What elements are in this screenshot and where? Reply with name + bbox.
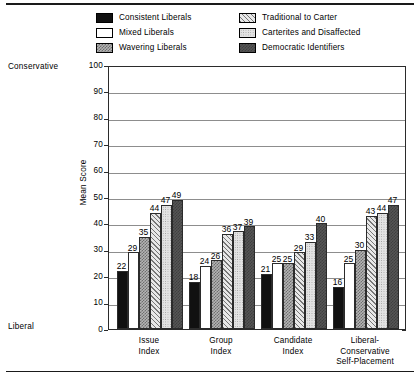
bar-value-label: 39: [242, 217, 256, 227]
bar: [117, 271, 128, 329]
bar: [139, 237, 150, 329]
bar: [222, 234, 233, 329]
y-tick-label: 70: [77, 140, 103, 149]
bar: [261, 274, 272, 329]
legend-item: Carterites and Disaffected: [239, 25, 396, 40]
y-tick-label: 0: [77, 325, 103, 334]
bar: [200, 266, 211, 329]
y-tick-label: 100: [77, 61, 103, 70]
bar-value-label: 35: [137, 227, 151, 237]
y-tick-label: 60: [77, 166, 103, 175]
y-tick-label: 50: [77, 193, 103, 202]
bar-value-label: 18: [187, 272, 201, 282]
legend-item: Mixed Liberals: [96, 25, 239, 40]
legend-swatch-dark-gray-icon: [239, 43, 256, 53]
y-tick-label: 30: [77, 245, 103, 254]
legend-item: Consistent Liberals: [96, 10, 239, 25]
bar: [305, 242, 316, 329]
bar: [172, 200, 183, 329]
legend-label: Consistent Liberals: [119, 13, 191, 23]
x-axis-group-label-line: Self-Placement: [322, 357, 408, 368]
legend-label: Democratic Identifiers: [262, 43, 344, 53]
axis-annotation-liberal: Liberal: [8, 322, 34, 331]
bar-value-label: 29: [292, 243, 306, 253]
bar-value-label: 33: [303, 232, 317, 242]
legend-label: Wavering Liberals: [119, 43, 187, 53]
x-axis-group-label-line: Conservative: [322, 347, 408, 358]
legend-label: Carterites and Disaffected: [262, 28, 360, 38]
legend-item: Democratic Identifiers: [239, 40, 396, 55]
bar-value-label: 25: [281, 254, 295, 264]
y-axis-title: Mean Score: [79, 138, 88, 228]
y-tick-label: 10: [77, 298, 103, 307]
bar: [211, 260, 222, 329]
gridline: [109, 93, 405, 94]
bar: [316, 223, 327, 329]
legend-label: Mixed Liberals: [119, 28, 174, 38]
bar: [150, 213, 161, 329]
bar: [366, 216, 377, 330]
bar-value-label: 21: [259, 264, 273, 274]
bar: [377, 213, 388, 329]
bar: [244, 226, 255, 329]
bar: [128, 252, 139, 329]
legend-item: Traditional to Carter: [239, 10, 396, 25]
bar: [272, 263, 283, 329]
bar: [189, 282, 200, 330]
x-axis-group-label-line: Liberal-: [322, 336, 408, 347]
bar: [161, 205, 172, 329]
legend-swatch-dots-icon: [239, 28, 256, 38]
plot-area: [108, 66, 406, 330]
bar-value-label: 40: [314, 214, 328, 224]
bottom-horizontal-rule: [6, 371, 414, 372]
legend-swatch-hatch-icon: [239, 13, 256, 23]
bar-value-label: 22: [115, 261, 129, 271]
top-horizontal-rule: [6, 3, 414, 5]
y-tick-label: 20: [77, 272, 103, 281]
legend-swatch-checker-icon: [96, 43, 113, 53]
bar-value-label: 25: [342, 254, 356, 264]
bar-value-label: 47: [386, 195, 400, 205]
bar-value-label: 16: [331, 277, 345, 287]
x-axis-group-label: Liberal-ConservativeSelf-Placement: [322, 336, 408, 368]
chart-legend: Consistent LiberalsTraditional to Carter…: [96, 10, 396, 55]
gridline: [109, 146, 405, 147]
legend-item: Wavering Liberals: [96, 40, 239, 55]
y-tick-label: 40: [77, 219, 103, 228]
bar: [283, 263, 294, 329]
bar: [344, 263, 355, 329]
bar-value-label: 29: [126, 243, 140, 253]
bar: [294, 252, 305, 329]
bar: [233, 231, 244, 329]
legend-label: Traditional to Carter: [262, 13, 337, 23]
y-tick-label: 80: [77, 113, 103, 122]
y-tick-mark-right: [402, 330, 406, 331]
bar-value-label: 26: [209, 251, 223, 261]
y-tick-mark: [104, 330, 108, 331]
y-tick-label: 90: [77, 87, 103, 96]
bar: [333, 287, 344, 329]
axis-annotation-conservative: Conservative: [8, 62, 58, 71]
gridline: [109, 173, 405, 174]
legend-swatch-white-icon: [96, 28, 113, 38]
gridline: [109, 120, 405, 121]
bar: [388, 205, 399, 329]
bar-value-label: 30: [353, 240, 367, 250]
gridline: [109, 199, 405, 200]
bar: [355, 250, 366, 329]
bar-value-label: 49: [170, 190, 184, 200]
legend-swatch-solid-black-icon: [96, 13, 113, 23]
